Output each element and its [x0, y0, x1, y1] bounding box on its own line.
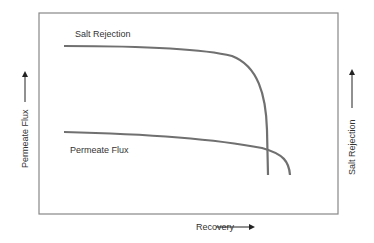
- diagram: Salt Rejection Permeate Flux Recovery Pe…: [0, 0, 374, 243]
- plot-frame: [39, 13, 338, 214]
- y-axis-left-label: Permeate Flux: [20, 109, 30, 168]
- salt-rejection-curve-label: Salt Rejection: [75, 29, 131, 39]
- y-axis-right-label: Salt Rejection: [347, 119, 357, 175]
- permeate-flux-curve-label: Permeate Flux: [70, 145, 129, 155]
- salt-rejection-curve: [64, 46, 268, 175]
